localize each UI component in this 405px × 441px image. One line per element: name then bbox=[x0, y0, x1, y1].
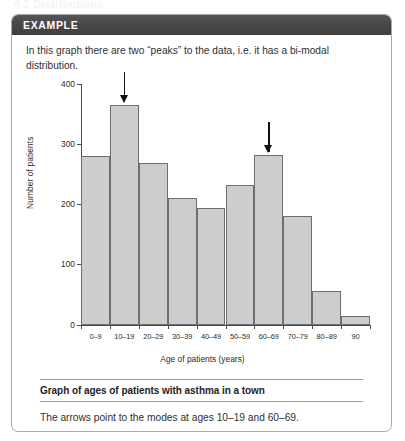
y-axis-title: Number of patients bbox=[25, 136, 35, 209]
example-card-body: In this graph there are two “peaks” to t… bbox=[12, 35, 391, 423]
mode-arrow-icon bbox=[120, 72, 129, 102]
intro-paragraph: In this graph there are two “peaks” to t… bbox=[26, 44, 378, 74]
x-tick bbox=[110, 325, 111, 329]
figure-caption: Graph of ages of patients with asthma in… bbox=[40, 379, 363, 402]
mode-arrow-icon bbox=[264, 122, 273, 152]
x-tick-label: 0–9 bbox=[89, 332, 101, 341]
arrow-head bbox=[120, 95, 128, 103]
y-tick-label: 400 bbox=[61, 79, 75, 89]
x-tick-label: 80–89 bbox=[317, 332, 337, 341]
example-card-header: EXAMPLE bbox=[12, 15, 391, 35]
x-tick bbox=[341, 325, 342, 329]
y-tick bbox=[77, 144, 81, 145]
x-tick-label: 70–79 bbox=[288, 332, 308, 341]
x-tick-label: 10–19 bbox=[114, 332, 134, 341]
y-tick-label: 300 bbox=[61, 139, 75, 149]
x-tick bbox=[312, 325, 313, 329]
histogram-bar bbox=[197, 208, 226, 324]
x-tick bbox=[283, 325, 284, 329]
plot-area: 01002003004000–910–1920–2930–3940–4950–5… bbox=[81, 84, 370, 326]
running-head: 4.2 Distributions bbox=[14, 0, 104, 10]
histogram-bar bbox=[283, 216, 312, 324]
example-label: EXAMPLE bbox=[23, 19, 78, 31]
x-tick-label: 90 bbox=[352, 332, 360, 341]
x-axis-title: Age of patients (years) bbox=[26, 354, 379, 364]
histogram-bar bbox=[254, 155, 283, 325]
histogram-bar bbox=[81, 156, 110, 325]
example-card: EXAMPLE In this graph there are two “pea… bbox=[11, 14, 392, 432]
histogram-bar bbox=[168, 198, 197, 325]
histogram-bar bbox=[110, 105, 139, 325]
y-tick-label: 100 bbox=[61, 259, 75, 269]
footnote-text: The arrows point to the modes at ages 10… bbox=[40, 412, 363, 423]
y-tick-label: 200 bbox=[61, 199, 75, 209]
histogram-bar bbox=[341, 316, 370, 325]
x-tick bbox=[139, 325, 140, 329]
histogram-bar bbox=[139, 163, 168, 324]
histogram-bar bbox=[312, 291, 341, 324]
x-tick bbox=[254, 325, 255, 329]
x-tick-label: 40–49 bbox=[201, 332, 221, 341]
x-tick-label: 30–39 bbox=[172, 332, 192, 341]
y-tick bbox=[77, 84, 81, 85]
arrow-head bbox=[264, 145, 272, 153]
x-tick bbox=[226, 325, 227, 329]
x-tick bbox=[197, 325, 198, 329]
x-tick bbox=[168, 325, 169, 329]
x-tick bbox=[81, 325, 82, 329]
x-tick-label: 50–59 bbox=[230, 332, 250, 341]
page-root: 4.2 Distributions EXAMPLE In this graph … bbox=[0, 0, 405, 441]
figure-caption-text: Graph of ages of patients with asthma in… bbox=[40, 385, 363, 396]
histogram-bar bbox=[226, 185, 255, 325]
x-tick-label: 60–69 bbox=[259, 332, 279, 341]
histogram-chart: Number of patients 01002003004000–910–19… bbox=[26, 83, 379, 371]
y-tick-label: 0 bbox=[70, 320, 75, 330]
x-tick-label: 20–29 bbox=[143, 332, 163, 341]
x-tick bbox=[370, 325, 371, 329]
